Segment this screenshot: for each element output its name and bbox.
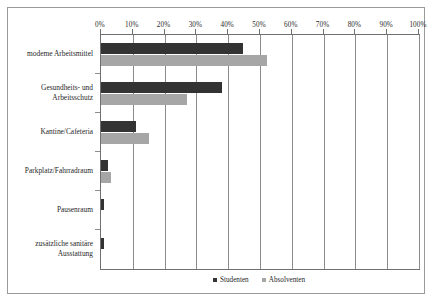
legend-entry-1[interactable]: Absolventen (262, 276, 305, 285)
bar-0-2 (101, 121, 136, 132)
plot-area (100, 34, 420, 270)
y-axis-category-label: Kantine/Cafeteria (16, 127, 93, 137)
y-axis-category-label: Parkplatz/Fahrradraum (16, 166, 93, 176)
y-axis-category-label: modeme Arbeitsmittel (16, 49, 93, 59)
y-axis-category-label: zusätzliche sanitäre Ausstattung (16, 239, 93, 258)
bar-0-5 (101, 238, 104, 249)
chart-legend: StudentenAbsolventen (100, 274, 418, 286)
bar-1-3 (101, 172, 111, 183)
y-axis-category-labels: modeme ArbeitsmittelGesundheits- und Arb… (16, 34, 93, 268)
bar-1-0 (101, 55, 267, 66)
bar-0-3 (101, 160, 108, 171)
y-axis-category-label: Gesundheits- und Arbeitsschutz (16, 83, 93, 102)
chart-frame: 0%10%20%30%40%50%60%70%80%90%100% modeme… (7, 7, 425, 294)
bar-0-4 (101, 199, 104, 210)
bar-1-1 (101, 94, 187, 105)
y-axis-category-label: Pausenraum (16, 205, 93, 215)
legend-label: Absolventen (269, 276, 305, 285)
gridline (419, 35, 420, 269)
bar-0-1 (101, 82, 222, 93)
legend-swatch-icon (213, 278, 217, 282)
bars-layer (101, 35, 419, 269)
legend-entry-0[interactable]: Studenten (213, 276, 249, 285)
bar-0-0 (101, 43, 243, 54)
legend-swatch-icon (262, 278, 266, 282)
legend-label: Studenten (220, 276, 249, 285)
bar-1-2 (101, 133, 149, 144)
